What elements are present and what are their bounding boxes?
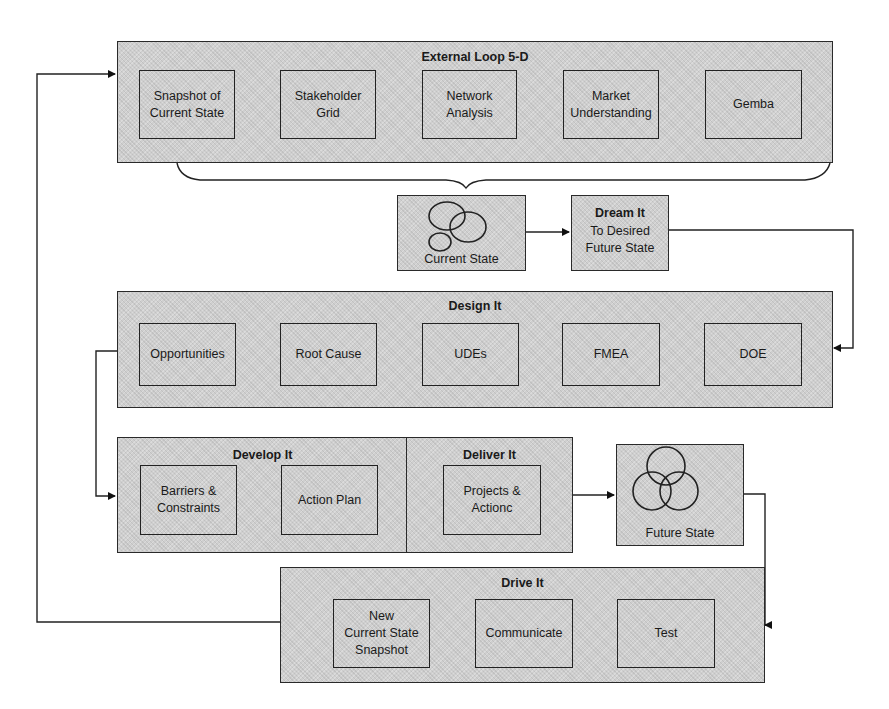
market-understanding-box[interactable]: Market Understanding xyxy=(563,70,659,139)
communicate-box[interactable]: Communicate xyxy=(475,599,573,668)
deliver-it-title: Deliver It xyxy=(407,448,572,462)
udes-box[interactable]: UDEs xyxy=(422,323,519,386)
stakeholder-grid-box[interactable]: Stakeholder Grid xyxy=(280,70,376,139)
future-state-box[interactable]: Future State xyxy=(616,444,744,546)
projects-actions-box[interactable]: Projects & Actionc xyxy=(443,465,541,535)
test-box[interactable]: Test xyxy=(617,599,715,668)
new-current-state-snapshot-box[interactable]: New Current State Snapshot xyxy=(333,599,430,668)
dream-it-subtitle: To Desired Future State xyxy=(572,223,668,257)
develop-it-title: Develop It xyxy=(118,448,407,462)
dream-it-box[interactable]: Dream It To Desired Future State xyxy=(571,195,669,271)
drive-it-title: Drive It xyxy=(281,576,764,590)
dream-it-title: Dream It xyxy=(572,206,668,220)
opportunities-box[interactable]: Opportunities xyxy=(139,323,236,386)
design-it-group: Design It Opportunities Root Cause UDEs … xyxy=(117,291,833,408)
external-loop-group: External Loop 5-D Snapshot of Current St… xyxy=(117,41,833,163)
drive-it-group: Drive It New Current State Snapshot Comm… xyxy=(280,567,765,683)
deliver-it-group: Deliver It Projects & Actionc xyxy=(406,437,573,553)
current-state-label: Current State xyxy=(398,252,525,266)
fmea-box[interactable]: FMEA xyxy=(562,323,660,386)
gemba-box[interactable]: Gemba xyxy=(705,70,802,139)
doe-box[interactable]: DOE xyxy=(704,323,802,386)
external-loop-title: External Loop 5-D xyxy=(118,50,832,64)
arrow-design-to-develop xyxy=(96,351,117,496)
current-state-box[interactable]: Current State xyxy=(397,195,526,271)
brace xyxy=(177,163,830,188)
network-analysis-box[interactable]: Network Analysis xyxy=(422,70,517,139)
develop-it-group: Develop It Barriers & Constraints Action… xyxy=(117,437,408,553)
overlapping-ellipses-icon xyxy=(398,196,527,256)
design-it-title: Design It xyxy=(118,299,832,313)
future-state-label: Future State xyxy=(617,526,743,540)
root-cause-box[interactable]: Root Cause xyxy=(280,323,377,386)
snapshot-current-state-box[interactable]: Snapshot of Current State xyxy=(139,70,235,139)
venn-three-circles-icon xyxy=(617,445,745,525)
action-plan-box[interactable]: Action Plan xyxy=(281,465,378,535)
barriers-constraints-box[interactable]: Barriers & Constraints xyxy=(140,465,237,535)
